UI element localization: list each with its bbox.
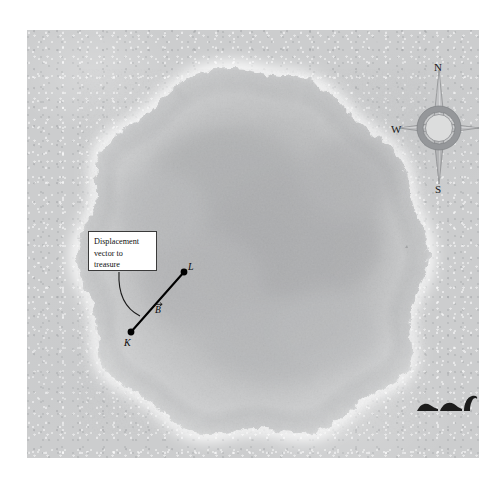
compass-label-west: W — [391, 124, 401, 135]
sea-monster-icon — [415, 394, 479, 420]
compass-label-south: S — [435, 184, 441, 195]
compass-rose: N E S W — [389, 62, 479, 192]
compass-label-north: N — [434, 62, 442, 73]
compass-hub — [426, 115, 453, 142]
callout-line-2: vector to — [94, 248, 152, 260]
figure-root: N E S W Displacement vector to treasure … — [0, 0, 497, 480]
point-label-K: K — [124, 338, 131, 348]
callout-box: Displacement vector to treasure — [88, 231, 157, 271]
vector-label-B-text: B — [155, 305, 161, 315]
point-label-L: L — [188, 262, 194, 272]
callout-line-3: treasure — [94, 259, 152, 271]
vector-label-B: B — [155, 306, 161, 316]
callout-line-1: Displacement — [94, 236, 152, 248]
compass-rose-graphic — [389, 62, 479, 192]
vector-arrow-accent-icon — [155, 301, 163, 306]
